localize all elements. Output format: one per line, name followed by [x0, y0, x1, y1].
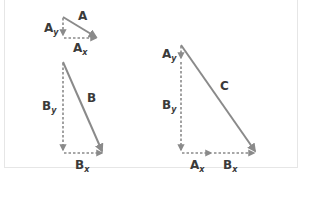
label-c-a-y: Ay: [162, 47, 177, 63]
vector-b-arrow: [63, 62, 102, 151]
label-b-y: By: [42, 99, 57, 115]
label-b: B: [87, 91, 96, 105]
label-c-b-x: Bx: [223, 158, 238, 174]
vector-addition-diagram: A Ay Ax B By Bx C Ay By Ax Bx: [0, 0, 311, 197]
label-a-y: Ay: [44, 21, 59, 37]
vector-c-group: C Ay By Ax Bx: [162, 45, 255, 174]
vector-c-arrow: [181, 45, 255, 151]
vector-b-group: B By Bx: [42, 62, 102, 174]
label-c-a-x: Ax: [190, 158, 205, 174]
label-b-x: Bx: [75, 158, 90, 174]
label-c: C: [220, 79, 229, 93]
label-c-b-y: By: [162, 98, 177, 114]
vector-a-group: A Ay Ax: [44, 9, 96, 57]
label-a: A: [78, 9, 88, 23]
label-a-x: Ax: [73, 41, 88, 57]
